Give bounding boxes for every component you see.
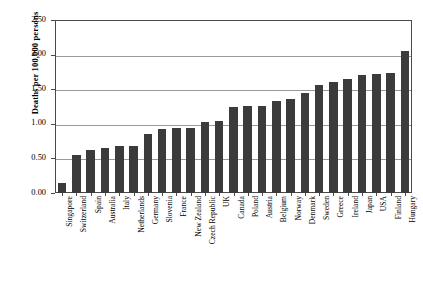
y-tick-label: 2.50 (2, 15, 46, 24)
x-tick-label: Switzerland (79, 196, 88, 232)
x-tick-label: Canada (237, 196, 246, 219)
bar (401, 51, 410, 193)
bar (286, 99, 295, 193)
bar (201, 122, 210, 193)
bar (358, 75, 367, 193)
y-tick-mark (51, 193, 55, 194)
bar (72, 155, 81, 193)
x-tick-label: Slovenia (165, 196, 174, 223)
x-tick-label: Greece (336, 196, 345, 218)
bar (215, 121, 224, 193)
x-tick-label: France (179, 196, 188, 217)
x-tick-label: Japan (365, 196, 374, 213)
bar (343, 79, 352, 193)
bar (186, 128, 195, 193)
x-tick-label: Denmark (308, 196, 317, 224)
x-tick-label: Australia (108, 196, 117, 224)
x-tick-label: Norway (294, 196, 303, 220)
x-tick-label: Poland (251, 196, 260, 217)
y-tick-label: 0.50 (2, 153, 46, 162)
bar (158, 129, 167, 193)
bar (386, 73, 395, 193)
bar (86, 150, 95, 193)
x-tick-label: Finland (394, 196, 403, 219)
x-tick-label: Sweden (322, 196, 331, 220)
x-tick-label: UK (222, 196, 231, 207)
y-tick-label: 0.00 (2, 188, 46, 197)
x-tick-label: Austria (265, 196, 274, 218)
x-tick-label: Germany (151, 196, 160, 224)
x-tick-label: Spain (94, 196, 103, 213)
bar (229, 107, 238, 193)
x-tick-label: Ireland (351, 196, 360, 218)
bar (115, 146, 124, 193)
x-tick-label: Czech Republic (208, 196, 217, 244)
bar (329, 82, 338, 193)
bar (258, 106, 267, 193)
x-tick-label: Netherlands (137, 196, 146, 233)
x-tick-label: USA (379, 196, 388, 211)
x-tick-label: Hungary (408, 196, 417, 223)
x-axis-labels: SingaporeSwitzerlandSpainAustraliaItalyN… (55, 196, 412, 291)
bar (172, 128, 181, 193)
bar (272, 101, 281, 193)
bar (315, 85, 324, 193)
bar (101, 148, 110, 193)
bar (129, 146, 138, 193)
bars-group (55, 20, 412, 193)
bar (144, 134, 153, 194)
x-tick-label: Belgium (279, 196, 288, 222)
x-tick-label: Italy (122, 196, 131, 210)
bar (372, 74, 381, 193)
bar-chart: Deaths per 100,000 persons 0.000.501.001… (0, 0, 423, 293)
y-tick-label: 1.50 (2, 84, 46, 93)
y-tick-label: 2.00 (2, 49, 46, 58)
x-tick-label: Singapore (65, 196, 74, 227)
x-tick-label: New Zealand (194, 196, 203, 237)
bar (243, 106, 252, 193)
y-tick-label: 1.00 (2, 118, 46, 127)
bar (301, 93, 310, 193)
bar (58, 183, 67, 193)
